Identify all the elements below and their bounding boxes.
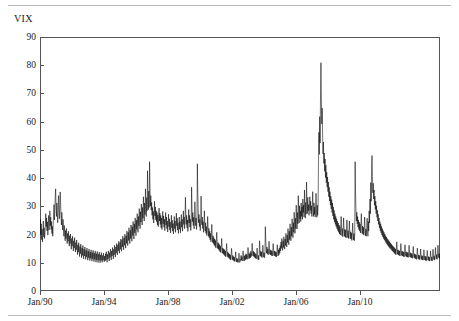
y-tick-label: 40 [2,173,36,183]
y-tick-label: 80 [2,60,36,70]
y-tick-mark [40,65,44,66]
y-tick-mark [40,263,44,264]
y-tick-mark [40,93,44,94]
x-tick-mark [40,291,41,295]
y-tick-mark [40,178,44,179]
y-tick-mark [40,235,44,236]
y-tick-label: 50 [2,145,36,155]
x-tick-label: Jan/06 [284,297,309,308]
y-tick-mark [40,206,44,207]
x-tick-mark [104,291,105,295]
x-tick-label: Jan/90 [28,297,53,308]
y-tick-label: 60 [2,117,36,127]
vix-series-line [40,63,440,263]
y-tick-label: 10 [2,258,36,268]
y-tick-label: 0 [2,286,36,296]
y-tick-label: 20 [2,230,36,240]
top-rule [8,5,451,6]
bottom-rule [8,315,451,316]
y-axis-labels: 0102030405060708090 [0,37,36,291]
x-tick-label: Jan/10 [348,297,373,308]
series-label: VIX [14,13,33,25]
y-tick-mark [40,150,44,151]
x-tick-label: Jan/98 [156,297,181,308]
vix-figure: VIX 0102030405060708090 Jan/90Jan/94Jan/… [0,0,459,321]
x-tick-mark [360,291,361,295]
y-tick-label: 90 [2,32,36,42]
x-tick-mark [232,291,233,295]
vix-line-chart [40,37,440,291]
x-tick-mark [296,291,297,295]
x-tick-label: Jan/94 [92,297,117,308]
y-tick-label: 30 [2,201,36,211]
x-tick-label: Jan/02 [220,297,245,308]
x-tick-mark [168,291,169,295]
plot-area [40,37,440,291]
y-tick-mark [40,122,44,123]
y-tick-label: 70 [2,88,36,98]
